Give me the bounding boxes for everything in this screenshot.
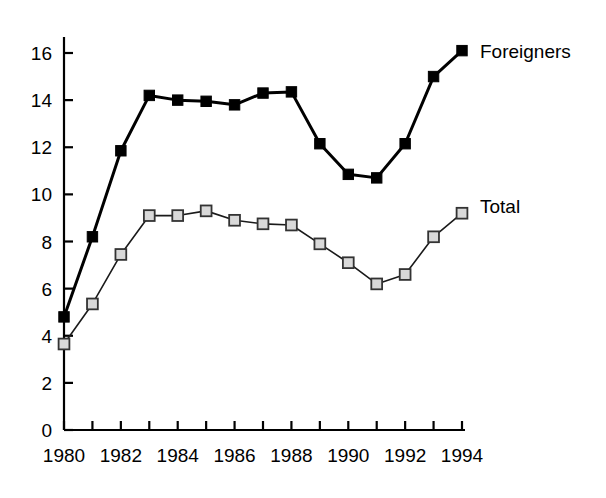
data-point — [59, 339, 70, 350]
y-axis-tick-label: 4 — [2, 327, 52, 346]
data-point — [115, 249, 126, 260]
y-axis-tick-label: 0 — [2, 421, 52, 440]
data-point — [59, 312, 69, 322]
data-point — [286, 220, 297, 231]
chart-container: 0246810121416198019821984198619881990199… — [0, 0, 606, 498]
data-point — [315, 139, 325, 149]
y-axis-tick-label: 6 — [2, 280, 52, 299]
data-point — [229, 100, 239, 110]
data-point — [314, 238, 325, 249]
y-axis-tick-label: 2 — [2, 374, 52, 393]
data-point — [343, 169, 353, 179]
data-point — [372, 173, 382, 183]
data-point — [87, 299, 98, 310]
series-label-foreigners: Foreigners — [480, 42, 571, 61]
data-point — [428, 71, 438, 81]
data-point — [173, 95, 183, 105]
data-point — [428, 231, 439, 242]
data-point — [371, 279, 382, 290]
data-point — [400, 139, 410, 149]
data-point — [87, 232, 97, 242]
data-point — [144, 90, 154, 100]
data-point — [172, 210, 183, 221]
data-point — [116, 146, 126, 156]
y-axis-tick-label: 14 — [2, 91, 52, 110]
data-point — [258, 218, 269, 229]
x-axis-tick-label: 1994 — [428, 446, 496, 465]
data-point — [201, 205, 212, 216]
y-axis-tick-label: 10 — [2, 185, 52, 204]
data-point — [229, 215, 240, 226]
data-point — [144, 210, 155, 221]
data-point — [201, 96, 211, 106]
series-total — [59, 205, 468, 349]
data-point — [400, 269, 411, 280]
data-point — [343, 257, 354, 268]
data-point — [457, 208, 468, 219]
line-chart-plot — [0, 0, 606, 498]
data-point — [457, 45, 467, 55]
y-axis-tick-label: 12 — [2, 138, 52, 157]
series-label-total: Total — [480, 197, 520, 216]
data-point — [258, 88, 268, 98]
y-axis-tick-label: 8 — [2, 233, 52, 252]
y-axis-tick-label: 16 — [2, 44, 52, 63]
data-point — [286, 87, 296, 97]
